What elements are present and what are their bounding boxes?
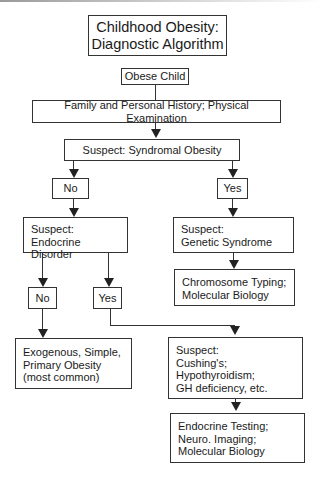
testing-line-3: Molecular Biology — [178, 445, 297, 458]
endocrine-no-label: No — [35, 292, 49, 305]
history-exam-node: Family and Personal History; Physical Ex… — [32, 100, 281, 123]
title-box: Childhood Obesity: Diagnostic Algorithm — [88, 15, 227, 56]
exogenous-obesity-node: Exogenous, Simple, Primary Obesity (most… — [15, 338, 132, 389]
arrow-down-icon — [38, 329, 48, 338]
exogenous-line-3: (most common) — [23, 371, 124, 384]
connector-obese-to-history — [155, 85, 156, 100]
suspect-cushings-node: Suspect: Cushing's; Hypothyroidism; GH d… — [168, 337, 303, 399]
cushings-line-4: GH deficiency, etc. — [176, 382, 295, 395]
exogenous-line-2: Primary Obesity — [23, 359, 124, 372]
arrow-down-icon — [151, 129, 161, 138]
syndromal-yes-node: Yes — [217, 178, 248, 199]
syndromal-no-label: No — [63, 182, 77, 195]
arrow-down-icon — [69, 169, 79, 178]
arrow-down-icon — [231, 402, 241, 411]
arrow-down-icon — [228, 208, 238, 217]
suspect-syndromal-label: Suspect: Syndromal Obesity — [83, 144, 222, 157]
obese-child-label: Obese Child — [125, 70, 186, 83]
testing-line-1: Endocrine Testing; — [178, 420, 297, 433]
genetic-line-1: Suspect: — [181, 223, 286, 236]
endocrine-yes-node: Yes — [93, 287, 122, 309]
syndromal-yes-label: Yes — [224, 182, 242, 195]
connector-yes-horizontal — [110, 325, 235, 326]
endocrine-yes-label: Yes — [99, 292, 117, 305]
cushings-line-1: Suspect: — [176, 344, 295, 357]
chromosome-line-1: Chromosome Typing; — [182, 276, 287, 289]
title-line-2: Diagnostic Algorithm — [91, 36, 223, 53]
arrow-down-icon — [69, 208, 79, 217]
genetic-syndrome-node: Suspect: Genetic Syndrome — [173, 217, 294, 253]
history-exam-label: Family and Personal History; Physical Ex… — [33, 99, 280, 124]
arrow-down-icon — [229, 260, 239, 269]
chromosome-line-2: Molecular Biology — [182, 289, 287, 302]
arrow-down-icon — [230, 326, 240, 335]
arrow-down-icon — [228, 169, 238, 178]
cushings-line-2: Cushing's; — [176, 357, 295, 370]
chromosome-typing-node: Chromosome Typing; Molecular Biology — [174, 269, 295, 306]
connector-no-to-exogenous — [42, 309, 43, 330]
genetic-line-2: Genetic Syndrome — [181, 236, 286, 249]
arrow-down-icon — [104, 278, 114, 287]
connector-endocrine-to-yes — [108, 253, 109, 279]
testing-line-2: Neuro. Imaging; — [178, 433, 297, 446]
connector-endocrine-to-no — [42, 253, 43, 279]
endocrine-no-node: No — [28, 287, 57, 309]
arrow-down-icon — [38, 278, 48, 287]
endocrine-line-2: Endocrine Disorder — [31, 236, 120, 261]
syndromal-no-node: No — [52, 178, 89, 199]
suspect-syndromal-node: Suspect: Syndromal Obesity — [64, 139, 240, 161]
endocrine-line-1: Suspect: — [31, 223, 120, 236]
obese-child-node: Obese Child — [121, 68, 189, 85]
exogenous-line-1: Exogenous, Simple, — [23, 346, 124, 359]
title-line-1: Childhood Obesity: — [96, 19, 219, 36]
endocrine-testing-node: Endocrine Testing; Neuro. Imaging; Molec… — [170, 413, 305, 463]
top-edge-shade — [0, 0, 323, 2]
cushings-line-3: Hypothyroidism; — [176, 369, 295, 382]
connector-yes-down — [110, 309, 111, 326]
endocrine-disorder-node: Suspect: Endocrine Disorder — [23, 217, 128, 253]
